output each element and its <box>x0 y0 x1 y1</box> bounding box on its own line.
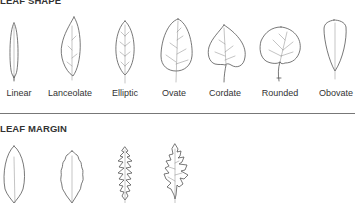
crenate-margin-leaf-icon <box>60 150 86 203</box>
leaf-margin-heading: LEAF MARGIN <box>0 123 67 134</box>
label-linear: Linear <box>0 88 44 98</box>
linear-leaf-icon <box>8 22 22 82</box>
label-ovate: Ovate <box>149 88 199 98</box>
label-elliptic: Elliptic <box>100 88 150 98</box>
label-lanceolate: Lanceolate <box>45 88 95 98</box>
ovate-leaf-icon <box>160 18 193 84</box>
cordate-leaf-icon <box>207 24 247 84</box>
elliptic-leaf-icon <box>113 20 137 84</box>
serrate-margin-leaf-icon <box>117 146 134 203</box>
label-rounded: Rounded <box>255 88 305 98</box>
rounded-leaf-icon <box>259 26 302 84</box>
obovate-leaf-icon <box>323 19 347 81</box>
lanceolate-leaf-icon <box>59 16 83 84</box>
leaf-shape-heading: LEAF SHAPE <box>0 0 61 6</box>
lobed-margin-leaf-icon <box>163 143 190 203</box>
label-cordate: Cordate <box>200 88 250 98</box>
label-obovate: Obovate <box>311 88 355 98</box>
entire-margin-leaf-icon <box>3 145 27 203</box>
section-divider <box>0 113 355 114</box>
